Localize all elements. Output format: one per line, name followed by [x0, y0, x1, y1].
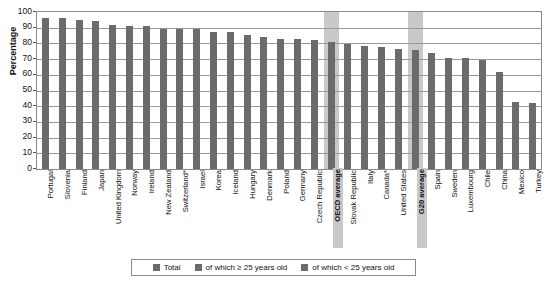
- bar: [378, 47, 385, 169]
- bar: [412, 50, 419, 169]
- legend-swatch-icon: [195, 264, 202, 271]
- bar: [109, 25, 116, 169]
- y-tick-10: 10: [8, 148, 32, 157]
- bar: [193, 29, 200, 170]
- x-category-label: G20 average: [417, 168, 427, 248]
- bar: [428, 53, 435, 169]
- bar: [512, 102, 519, 169]
- bar: [311, 40, 318, 169]
- x-category-label: Slovenia: [64, 170, 72, 248]
- bar: [328, 42, 335, 169]
- x-category-label: Korea: [215, 170, 223, 248]
- x-category-label: United States: [400, 170, 408, 248]
- x-category-label: OECD average: [333, 168, 343, 248]
- bar: [462, 58, 469, 169]
- bar: [294, 39, 301, 169]
- chart-container: Percentage 0102030405060708090100 Portug…: [0, 0, 548, 290]
- legend-swatch-icon: [301, 264, 308, 271]
- x-category-label: Portugal: [47, 170, 55, 248]
- x-category-label: Mexico: [518, 170, 526, 248]
- legend-label: Total: [164, 263, 181, 272]
- bar: [479, 60, 486, 169]
- x-category-label: New Zealand: [165, 170, 173, 248]
- legend-item: of which ≥ 25 years old: [195, 263, 288, 272]
- legend-item: of which < 25 years old: [301, 263, 394, 272]
- bar: [361, 46, 368, 169]
- y-tick-50: 50: [8, 85, 32, 94]
- x-category-label: Iceland: [232, 170, 240, 248]
- bar: [260, 37, 267, 169]
- bar: [529, 103, 536, 169]
- bar: [210, 32, 217, 169]
- legend-label: of which < 25 years old: [312, 263, 394, 272]
- legend-label: of which ≥ 25 years old: [206, 263, 288, 272]
- x-category-label: Spain: [434, 170, 442, 248]
- y-tick-60: 60: [8, 69, 32, 78]
- bar: [176, 29, 183, 170]
- x-category-label: Canada*: [383, 170, 391, 248]
- bar: [42, 18, 49, 169]
- x-category-label: Denmark: [266, 170, 274, 248]
- bar: [143, 26, 150, 169]
- bar: [227, 32, 234, 169]
- x-category-label: Chile: [484, 170, 492, 248]
- bar: [92, 21, 99, 169]
- x-category-label: China: [501, 170, 509, 248]
- y-tick-70: 70: [8, 54, 32, 63]
- bar: [76, 20, 83, 169]
- x-category-label: Italy: [367, 170, 375, 248]
- x-category-label: Slovak Republic: [350, 170, 358, 248]
- y-tick-90: 90: [8, 22, 32, 31]
- bar: [395, 49, 402, 169]
- bar: [344, 44, 351, 169]
- x-category-label: Switzerland*: [182, 170, 190, 248]
- x-category-label: Poland: [283, 170, 291, 248]
- chart-legend: Totalof which ≥ 25 years oldof which < 2…: [131, 259, 416, 276]
- bar: [126, 26, 133, 169]
- y-tick-40: 40: [8, 101, 32, 110]
- x-category-label: Turkey: [535, 170, 543, 248]
- plot-area: [36, 11, 542, 170]
- x-category-label: Hungary: [249, 170, 257, 248]
- y-tick-30: 30: [8, 116, 32, 125]
- x-category-label: Germany: [299, 170, 307, 248]
- bar-series-total: [37, 12, 541, 169]
- x-category-label: Israel: [199, 170, 207, 248]
- bar: [244, 35, 251, 169]
- x-category-label: Czech Republic: [316, 170, 324, 248]
- x-category-label: Japan: [98, 170, 106, 248]
- bar: [59, 18, 66, 169]
- y-tick-20: 20: [8, 132, 32, 141]
- bar: [160, 29, 167, 170]
- x-category-label: Ireland: [148, 170, 156, 248]
- x-category-label: United Kingdom: [115, 170, 123, 248]
- bar: [445, 58, 452, 169]
- y-tick-80: 80: [8, 38, 32, 47]
- legend-swatch-icon: [153, 264, 160, 271]
- bar: [277, 39, 284, 169]
- bar: [496, 72, 503, 169]
- x-category-label: Sweden: [451, 170, 459, 248]
- y-tick-0: 0: [8, 164, 32, 173]
- x-category-label: Luxembourg: [467, 170, 475, 248]
- y-tick-100: 100: [8, 7, 32, 16]
- x-category-label: Norway: [131, 170, 139, 248]
- x-category-label: Finland: [81, 170, 89, 248]
- legend-item: Total: [153, 263, 181, 272]
- x-axis-category-labels: PortugalSloveniaFinlandJapanUnited Kingd…: [36, 172, 542, 250]
